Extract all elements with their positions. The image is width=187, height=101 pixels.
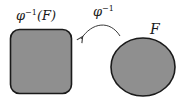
- inverse-map-label: φ−1: [93, 5, 114, 18]
- image-set-shape: [111, 38, 175, 96]
- image-set-label: F: [150, 22, 160, 36]
- inverse-map-arrow: [81, 25, 120, 39]
- preimage-set-shape: [11, 30, 72, 94]
- preimage-set-label: φ−1(F): [16, 9, 56, 22]
